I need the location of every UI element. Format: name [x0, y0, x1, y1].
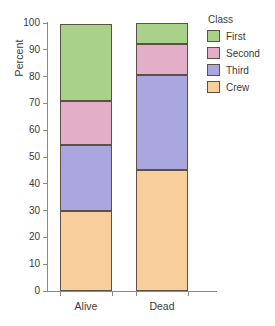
legend-item-third[interactable]: Third [207, 62, 275, 78]
bar-segment-third-dead[interactable] [136, 75, 188, 170]
legend-label-first: First [226, 31, 245, 42]
x-axis-line [47, 291, 217, 292]
legend-swatch-second [207, 47, 220, 59]
bar-segment-first-alive[interactable] [60, 24, 112, 100]
x-tick-mark [136, 291, 137, 296]
y-tick-label: 0 [34, 284, 40, 297]
y-axis-title: Percent [13, 23, 25, 93]
bar-alive[interactable] [60, 23, 112, 291]
legend-title: Class [207, 14, 275, 25]
legend-items: FirstSecondThirdCrew [207, 28, 275, 95]
x-tick-mark [188, 291, 189, 296]
bar-dead[interactable] [136, 23, 188, 291]
y-tick-label: 60 [29, 123, 40, 136]
stacked-bar-chart: Percent 0102030405060708090100 AliveDead… [0, 0, 275, 326]
y-tick-label: 10 [29, 257, 40, 270]
y-tick-label: 40 [29, 177, 40, 190]
y-tick-label: 90 [29, 43, 40, 56]
bar-segment-first-dead[interactable] [136, 23, 188, 44]
bar-segment-second-dead[interactable] [136, 44, 188, 75]
legend-item-second[interactable]: Second [207, 45, 275, 61]
x-axis-label-dead: Dead [122, 300, 202, 312]
bar-segment-crew-dead[interactable] [136, 170, 188, 291]
y-tick-label: 20 [29, 230, 40, 243]
y-tick-label: 30 [29, 204, 40, 217]
x-tick-mark [60, 291, 61, 296]
y-tick-label: 50 [29, 150, 40, 163]
x-axis-label-alive: Alive [46, 300, 126, 312]
plot-area [48, 23, 200, 291]
legend-item-crew[interactable]: Crew [207, 79, 275, 95]
legend-label-second: Second [226, 48, 260, 59]
legend: Class FirstSecondThirdCrew [207, 14, 275, 96]
bar-segment-second-alive[interactable] [60, 101, 112, 145]
legend-swatch-first [207, 30, 220, 42]
legend-label-third: Third [226, 65, 249, 76]
y-tick-label: 100 [23, 16, 40, 29]
legend-swatch-third [207, 64, 220, 76]
y-tick-label: 70 [29, 96, 40, 109]
legend-swatch-crew [207, 81, 220, 93]
y-tick-label: 80 [29, 70, 40, 83]
bar-segment-crew-alive[interactable] [60, 211, 112, 291]
legend-item-first[interactable]: First [207, 28, 275, 44]
x-tick-mark [112, 291, 113, 296]
bar-segment-third-alive[interactable] [60, 145, 112, 211]
legend-label-crew: Crew [226, 82, 249, 93]
